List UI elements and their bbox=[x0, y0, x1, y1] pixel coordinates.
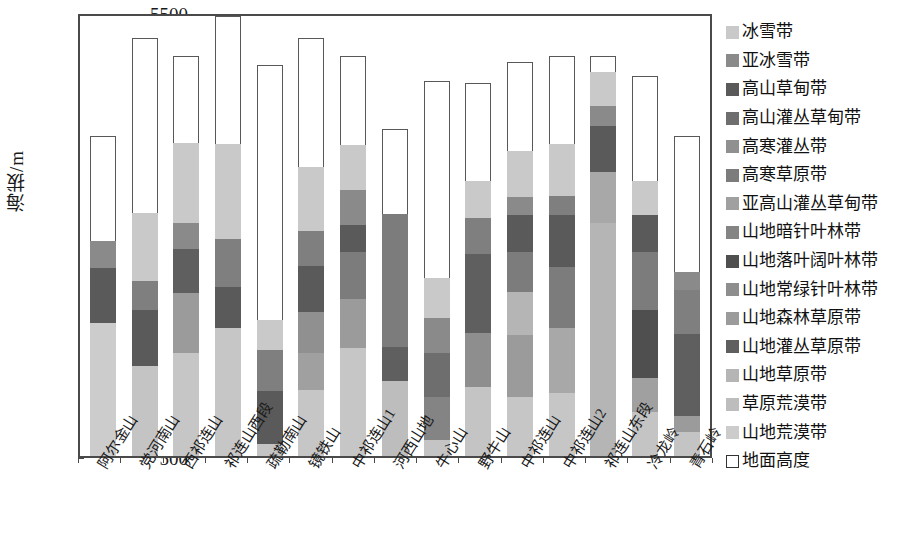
bar-segment bbox=[215, 239, 241, 287]
legend-item[interactable]: 亚冰雪带 bbox=[726, 47, 902, 76]
legend-item[interactable]: 山地暗针叶林带 bbox=[726, 218, 902, 247]
bar-segment bbox=[632, 252, 658, 311]
bar-segment bbox=[674, 334, 700, 416]
ground-elevation-box bbox=[632, 76, 658, 181]
bar-segment bbox=[632, 310, 658, 377]
stacked-bar[interactable] bbox=[590, 16, 616, 456]
bar-segment bbox=[632, 181, 658, 215]
legend-swatch-icon bbox=[726, 197, 739, 210]
stacked-bar[interactable] bbox=[382, 16, 408, 456]
bar-segment bbox=[90, 268, 116, 323]
stacked-bar-series bbox=[80, 16, 710, 456]
bar-segment bbox=[340, 299, 366, 348]
bar-segment bbox=[465, 254, 491, 334]
stacked-bar[interactable] bbox=[674, 16, 700, 456]
bar-segment bbox=[674, 290, 700, 334]
legend-label: 高寒草原带 bbox=[742, 166, 827, 184]
bar-segment bbox=[507, 292, 533, 336]
bar-segment bbox=[549, 267, 575, 328]
stacked-bar[interactable] bbox=[340, 16, 366, 456]
legend-swatch-icon bbox=[726, 140, 739, 153]
bar-segment bbox=[549, 144, 575, 196]
legend-swatch-icon bbox=[726, 340, 739, 353]
legend-swatch-icon bbox=[726, 455, 739, 468]
legend-label: 地面高度 bbox=[742, 452, 810, 470]
legend-swatch-icon bbox=[726, 255, 739, 268]
bar-segment bbox=[632, 215, 658, 252]
legend-item[interactable]: 冰雪带 bbox=[726, 18, 902, 47]
stacked-bar[interactable] bbox=[424, 16, 450, 456]
legend-item[interactable]: 山地荒漠带 bbox=[726, 418, 902, 447]
bar-segment bbox=[465, 218, 491, 254]
ground-elevation-box bbox=[298, 38, 324, 168]
legend-label: 高山灌丛草甸带 bbox=[742, 109, 861, 127]
stacked-bar[interactable] bbox=[549, 16, 575, 456]
legend-item[interactable]: 高寒灌丛带 bbox=[726, 132, 902, 161]
bar-segment bbox=[173, 249, 199, 293]
ground-elevation-box bbox=[549, 56, 575, 144]
legend-item[interactable]: 地面高度 bbox=[726, 447, 902, 476]
x-axis-tick-mark bbox=[712, 458, 713, 463]
legend-swatch-icon bbox=[726, 83, 739, 96]
stacked-bar[interactable] bbox=[632, 16, 658, 456]
legend-item[interactable]: 山地草原带 bbox=[726, 361, 902, 390]
bar-segment bbox=[424, 278, 450, 317]
stacked-bar[interactable] bbox=[173, 16, 199, 456]
legend-label: 山地森林草原带 bbox=[742, 309, 861, 327]
legend-item[interactable]: 高寒草原带 bbox=[726, 161, 902, 190]
legend-item[interactable]: 草原荒漠带 bbox=[726, 390, 902, 419]
legend-item[interactable]: 山地森林草原带 bbox=[726, 304, 902, 333]
ground-elevation-box bbox=[132, 38, 158, 213]
bar-segment bbox=[257, 320, 283, 350]
bar-segment bbox=[340, 225, 366, 252]
legend-swatch-icon bbox=[726, 369, 739, 382]
stacked-bar[interactable] bbox=[298, 16, 324, 456]
stacked-bar[interactable] bbox=[132, 16, 158, 456]
legend-swatch-icon bbox=[726, 426, 739, 439]
stacked-bar[interactable] bbox=[215, 16, 241, 456]
x-axis-tick-mark bbox=[332, 458, 333, 463]
ground-elevation-box bbox=[257, 65, 283, 320]
stacked-bar[interactable] bbox=[465, 16, 491, 456]
bar-segment bbox=[215, 144, 241, 238]
legend-item[interactable]: 山地常绿针叶林带 bbox=[726, 275, 902, 304]
bar-segment bbox=[340, 252, 366, 299]
bar-segment bbox=[132, 213, 158, 281]
legend-label: 山地草原带 bbox=[742, 366, 827, 384]
legend-item[interactable]: 山地落叶阔叶林带 bbox=[726, 247, 902, 276]
ground-elevation-box bbox=[507, 62, 533, 151]
legend-item[interactable]: 高山灌丛草甸带 bbox=[726, 104, 902, 133]
legend-swatch-icon bbox=[726, 54, 739, 67]
stacked-bar[interactable] bbox=[257, 16, 283, 456]
legend-item[interactable]: 山地灌丛草原带 bbox=[726, 333, 902, 362]
legend-label: 山地落叶阔叶林带 bbox=[742, 252, 878, 270]
legend-swatch-icon bbox=[726, 169, 739, 182]
legend-label: 冰雪带 bbox=[742, 23, 793, 41]
legend-swatch-icon bbox=[726, 398, 739, 411]
legend-swatch-icon bbox=[726, 26, 739, 39]
x-axis-tick-mark bbox=[627, 458, 628, 463]
legend-swatch-icon bbox=[726, 283, 739, 296]
bar-segment bbox=[173, 223, 199, 250]
x-axis-tick-mark bbox=[585, 458, 586, 463]
legend-swatch-icon bbox=[726, 112, 739, 125]
ground-elevation-box bbox=[90, 136, 116, 241]
legend-swatch-icon bbox=[726, 312, 739, 325]
bar-segment bbox=[507, 215, 533, 252]
stacked-bar[interactable] bbox=[90, 16, 116, 456]
bar-segment bbox=[507, 197, 533, 215]
ground-elevation-box bbox=[424, 81, 450, 278]
bar-segment bbox=[257, 350, 283, 391]
bar-segment bbox=[298, 312, 324, 353]
x-axis-tick-mark bbox=[247, 458, 248, 463]
legend-label: 山地荒漠带 bbox=[742, 424, 827, 442]
bar-segment bbox=[507, 252, 533, 292]
legend-item[interactable]: 亚高山灌丛草甸带 bbox=[726, 190, 902, 219]
legend-item[interactable]: 高山草甸带 bbox=[726, 75, 902, 104]
x-axis-tick-mark bbox=[205, 458, 206, 463]
bar-segment bbox=[215, 287, 241, 327]
bar-segment bbox=[590, 72, 616, 106]
stacked-bar[interactable] bbox=[507, 16, 533, 456]
ground-elevation-box bbox=[465, 83, 491, 181]
x-axis-tick-mark bbox=[374, 458, 375, 463]
